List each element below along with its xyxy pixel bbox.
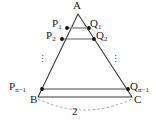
point-p2 bbox=[60, 37, 64, 41]
point-label-q2-base: Q bbox=[96, 29, 104, 41]
vertex-label-a: A bbox=[73, 0, 81, 11]
point-label-p2: P2 bbox=[46, 30, 56, 41]
ellipsis-left-dot-3: · bbox=[41, 60, 44, 63]
point-label-qn1-base: Q bbox=[130, 80, 138, 92]
point-pn1 bbox=[40, 87, 44, 91]
ellipsis-right: · · · bbox=[114, 54, 117, 63]
measure-arc-bc bbox=[38, 99, 132, 110]
point-label-p2-sub: 2 bbox=[52, 35, 56, 43]
point-label-qn1-sub: n−1 bbox=[138, 86, 149, 94]
point-p1 bbox=[65, 26, 69, 30]
point-label-q2: Q2 bbox=[96, 30, 107, 41]
point-label-pn1-sub: n−1 bbox=[15, 86, 26, 94]
vertex-label-c: C bbox=[134, 94, 141, 105]
figure-canvas bbox=[0, 0, 156, 130]
ellipsis-right-dot-3: · bbox=[114, 60, 117, 63]
measure-label-base: 2 bbox=[72, 106, 78, 117]
point-label-q1-base: Q bbox=[90, 17, 98, 29]
geometry-figure: A B C P1 Q1 P2 Q2 Pn−1 Qn−1 · · · · · · … bbox=[0, 0, 156, 130]
point-label-q1: Q1 bbox=[90, 18, 101, 29]
point-label-p1: P1 bbox=[52, 18, 62, 29]
point-label-p1-sub: 1 bbox=[58, 23, 62, 31]
point-label-qn1: Qn−1 bbox=[130, 81, 149, 92]
point-label-q2-sub: 2 bbox=[104, 35, 108, 43]
ellipsis-left: · · · bbox=[41, 54, 44, 63]
point-label-pn1: Pn−1 bbox=[9, 81, 26, 92]
vertex-label-b: B bbox=[30, 94, 37, 105]
